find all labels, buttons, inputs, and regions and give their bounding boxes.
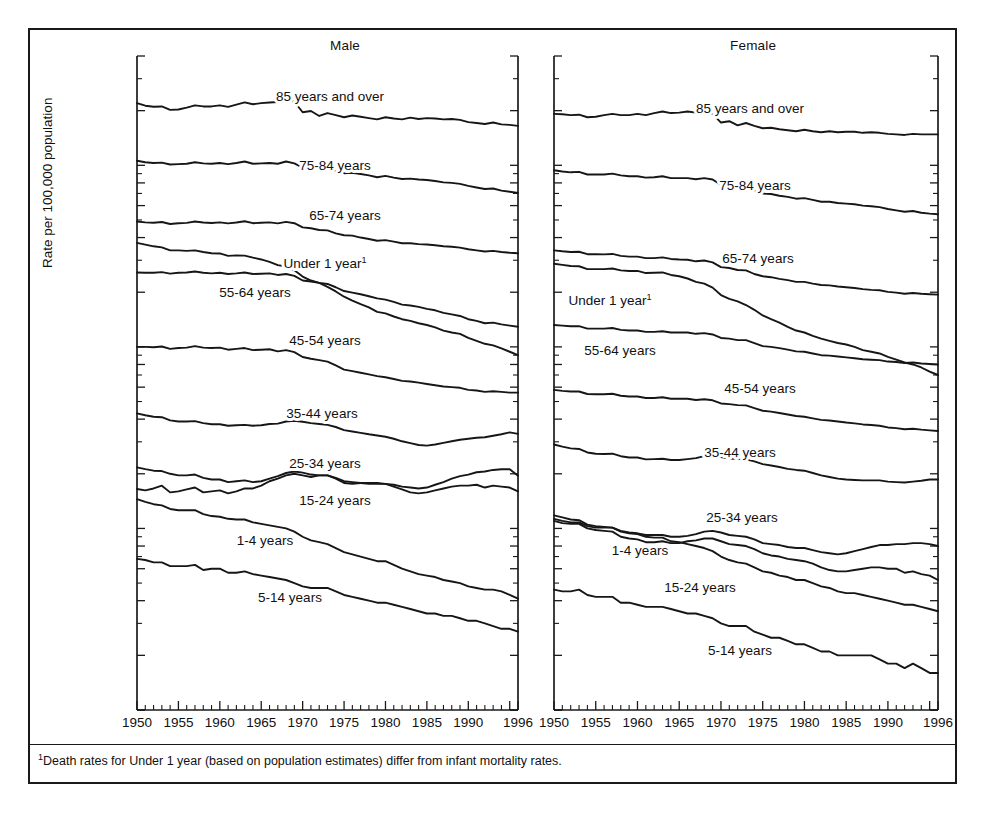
- series-line: [137, 346, 518, 393]
- series-label: 35-44 years: [286, 406, 358, 421]
- series-line: [554, 264, 938, 375]
- series-label: 5-14 years: [258, 590, 322, 605]
- series-label: Under 1 year1: [283, 255, 366, 271]
- series-label: Under 1 year1: [568, 292, 651, 308]
- series-line: [554, 390, 938, 431]
- series-label: 55-64 years: [219, 285, 291, 300]
- series-label: 35-44 years: [704, 445, 776, 460]
- series-line: [137, 559, 518, 632]
- series-label: 25-34 years: [706, 510, 778, 525]
- series-label: 45-54 years: [289, 333, 361, 348]
- series-label: 1-4 years: [237, 533, 294, 548]
- series-label: 65-74 years: [722, 251, 794, 266]
- footnote-divider: [30, 744, 955, 745]
- series-label: 45-54 years: [724, 381, 796, 396]
- footnote: 1Death rates for Under 1 year (based on …: [38, 752, 562, 768]
- series-label: 55-64 years: [584, 343, 656, 358]
- figure-page: Male Female Rate per 100,000 population …: [0, 0, 988, 826]
- series-label: 85 years and over: [696, 101, 805, 116]
- series-label: 75-84 years: [299, 158, 371, 173]
- series-label: 5-14 years: [708, 643, 772, 658]
- series-line: [137, 221, 518, 253]
- footnote-text: Death rates for Under 1 year (based on p…: [43, 754, 562, 768]
- series-label: 65-74 years: [309, 208, 381, 223]
- series-label: 85 years and over: [276, 89, 385, 104]
- series-label: 15-24 years: [664, 580, 736, 595]
- series-label: 15-24 years: [299, 493, 371, 508]
- chart-canvas: 85 years and over85 years and over75-84 …: [0, 0, 988, 826]
- series-label: 1-4 years: [612, 543, 669, 558]
- series-line: [137, 272, 518, 327]
- series-line: [137, 499, 518, 599]
- series-label: 75-84 years: [719, 178, 791, 193]
- series-line: [554, 590, 938, 673]
- series-label: 25-34 years: [289, 456, 361, 471]
